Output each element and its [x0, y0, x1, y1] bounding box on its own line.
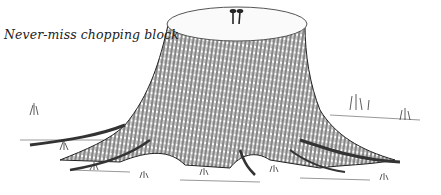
- caption-text: Never-miss chopping block: [4, 27, 179, 42]
- illustration: Never-miss chopping block: [0, 0, 441, 195]
